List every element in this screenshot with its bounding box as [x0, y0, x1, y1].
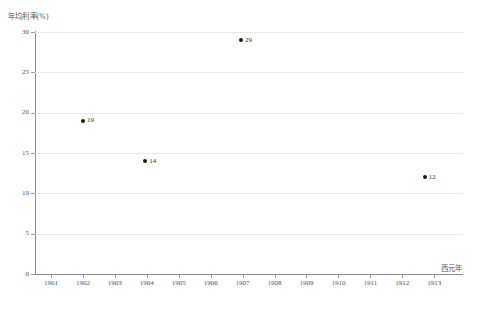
y-tick-label: 30 — [7, 29, 29, 36]
x-tick-label: 1910 — [321, 280, 355, 287]
y-tick-mark — [31, 72, 35, 73]
x-tick-label: 1906 — [194, 280, 228, 287]
data-point-label: 29 — [245, 37, 252, 44]
data-point-label: 14 — [149, 158, 156, 165]
y-tick-label: 20 — [7, 109, 29, 116]
x-tick-label: 1912 — [385, 280, 419, 287]
y-tick-label: 0 — [7, 271, 29, 278]
x-tick-label: 1903 — [98, 280, 132, 287]
x-tick-mark — [179, 274, 180, 278]
y-tick-label: 10 — [7, 190, 29, 197]
gridline — [35, 234, 463, 235]
x-tick-label: 1911 — [353, 280, 387, 287]
y-tick-mark — [31, 153, 35, 154]
scatter-chart: 年均利率(%) 西元年 051015202530 190119021903190… — [0, 0, 477, 311]
y-tick-mark — [31, 193, 35, 194]
x-tick-label: 1904 — [130, 280, 164, 287]
x-tick-mark — [338, 274, 339, 278]
x-tick-label: 1901 — [34, 280, 68, 287]
x-tick-mark — [83, 274, 84, 278]
x-tick-label: 1913 — [417, 280, 451, 287]
data-point-label: 12 — [429, 174, 436, 181]
x-tick-mark — [115, 274, 116, 278]
x-tick-mark — [434, 274, 435, 278]
x-tick-mark — [211, 274, 212, 278]
gridline — [35, 113, 463, 114]
y-tick-label: 15 — [7, 150, 29, 157]
x-tick-label: 1909 — [289, 280, 323, 287]
x-tick-label: 1908 — [258, 280, 292, 287]
x-tick-mark — [275, 274, 276, 278]
y-tick-mark — [31, 113, 35, 114]
x-tick-label: 1902 — [66, 280, 100, 287]
x-tick-mark — [243, 274, 244, 278]
x-axis-line — [35, 274, 463, 275]
data-point-label: 19 — [87, 117, 94, 124]
gridline — [35, 72, 463, 73]
gridline — [35, 193, 463, 194]
y-tick-mark — [31, 234, 35, 235]
y-tick-label: 25 — [7, 69, 29, 76]
x-tick-mark — [402, 274, 403, 278]
gridline — [35, 153, 463, 154]
x-tick-label: 1907 — [226, 280, 260, 287]
y-tick-mark — [31, 274, 35, 275]
x-tick-mark — [51, 274, 52, 278]
y-tick-mark — [31, 32, 35, 33]
gridline — [35, 32, 463, 33]
y-axis-title: 年均利率(%) — [8, 10, 49, 21]
x-tick-label: 1905 — [162, 280, 196, 287]
x-tick-mark — [147, 274, 148, 278]
y-tick-label: 5 — [7, 230, 29, 237]
data-point — [423, 175, 427, 179]
data-point — [81, 119, 85, 123]
data-point — [239, 38, 243, 42]
x-tick-mark — [306, 274, 307, 278]
plot-area: 051015202530 190119021903190419051906190… — [35, 32, 463, 274]
data-point — [143, 159, 147, 163]
x-tick-mark — [370, 274, 371, 278]
